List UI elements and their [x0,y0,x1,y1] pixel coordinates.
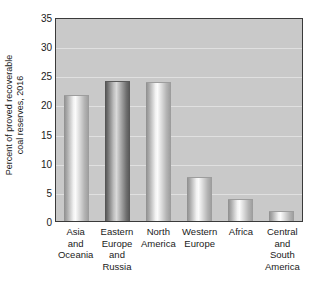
bar [228,199,253,221]
bar [64,95,89,221]
bar-series [56,19,302,221]
y-axis-title-line1: Percent of proved recoverable [4,55,14,176]
y-axis-tick-labels: 05101520253035 [28,18,52,222]
x-tick-label: Eastern Europe and Russia [96,226,137,272]
y-tick-label: 20 [41,100,52,111]
plot-area [55,18,303,222]
y-tick-label: 15 [41,129,52,140]
x-tick-label: Africa [220,226,261,272]
bar [187,177,212,221]
x-tick-label: North America [138,226,179,272]
y-tick-label: 25 [41,71,52,82]
bar [269,211,294,221]
bar-slot [56,19,97,221]
y-axis-title: Percent of proved recoverable coal reser… [2,0,28,230]
bar-slot [97,19,138,221]
y-tick-label: 35 [41,13,52,24]
x-tick-label: Western Europe [179,226,220,272]
bar-slot [179,19,220,221]
bar-slot [138,19,179,221]
y-tick-label: 0 [46,217,52,228]
x-tick-label: Central and South America [262,226,303,272]
bar-slot [220,19,261,221]
y-axis-title-line2: coal reserves, 2016 [15,55,26,176]
y-tick-label: 10 [41,158,52,169]
y-tick-label: 5 [46,187,52,198]
bar [105,81,130,221]
x-tick-label: Asia and Oceania [55,226,96,272]
bar-slot [261,19,302,221]
x-axis-tick-labels: Asia and OceaniaEastern Europe and Russi… [55,226,303,272]
y-tick-label: 30 [41,42,52,53]
bar [146,82,171,221]
bar-chart-figure: Percent of proved recoverable coal reser… [0,0,315,287]
